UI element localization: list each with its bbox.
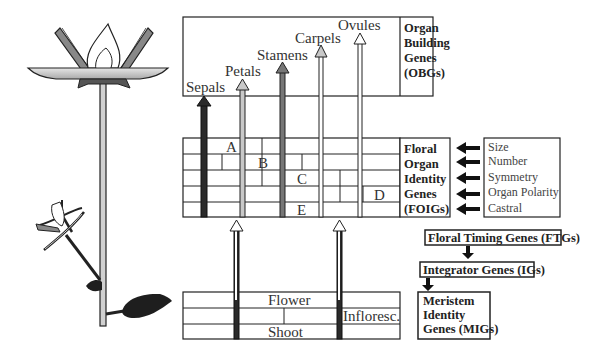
trait-item: Size: [488, 140, 509, 154]
lateral-branch: [66, 235, 100, 280]
foig-grid: A B C D E: [183, 138, 400, 218]
abc-label-b: B: [258, 155, 268, 171]
obg-line: Building: [404, 36, 451, 50]
obg-line: (OBGs): [404, 66, 445, 80]
foig-line: (FOIGs): [404, 202, 449, 216]
foig-line: Organ: [404, 157, 439, 171]
ftg-label: Floral Timing Genes (FTGs): [428, 231, 580, 245]
obg-line: Organ: [404, 21, 439, 35]
organ-label-carpels: Carpels: [295, 30, 341, 46]
ig-label: Integrator Genes (IGs): [423, 263, 545, 277]
organ-label-petals: Petals: [225, 63, 261, 79]
mig-line: Meristem: [423, 294, 475, 308]
organ-label-stamens: Stamens: [257, 47, 308, 63]
abc-label-a: A: [226, 139, 237, 155]
sepal-disc: [28, 68, 168, 79]
trait-arrows: [456, 142, 480, 215]
abc-label-d: D: [374, 187, 385, 203]
meristem-label-shoot: Shoot: [268, 324, 304, 340]
obg-label: Organ Building Genes (OBGs): [404, 21, 451, 80]
organ-label-ovules: Ovules: [338, 17, 381, 33]
foig-line: Identity: [404, 172, 447, 186]
small-flower: [36, 200, 84, 250]
large-leaf: [122, 294, 172, 318]
organ-label-sepals: Sepals: [186, 79, 225, 95]
abc-label-e: E: [297, 202, 306, 218]
meristem-label-flower: Flower: [268, 292, 311, 308]
left-arrow-icon: [456, 156, 480, 168]
obg-line: Genes: [404, 51, 437, 65]
foig-line: Floral: [404, 142, 437, 156]
down-arrow-icon: [462, 246, 474, 259]
mig-line: Identity: [423, 308, 466, 322]
left-arrow-icon: [456, 188, 480, 200]
meristem-label-infloresc: Infloresc.: [343, 308, 400, 324]
foig-line: Genes: [404, 187, 437, 201]
trait-item: Symmetry: [488, 170, 538, 184]
top-flower: [28, 24, 168, 88]
trait-item: Organ Polarity: [488, 185, 559, 199]
abc-label-c: C: [297, 171, 307, 187]
small-leaf: [86, 280, 102, 291]
meristem-grid: Flower Infloresc. Shoot: [183, 292, 400, 340]
floral-gene-diagram: Organ Building Genes (OBGs) Sepals Petal…: [0, 0, 594, 355]
down-arrow-icon: [422, 278, 434, 291]
trait-item: Number: [488, 154, 527, 168]
left-arrow-icon: [456, 142, 480, 154]
plant-illustration: [28, 24, 172, 326]
mig-line: Genes (MIGs): [423, 322, 498, 336]
left-arrow-icon: [456, 203, 480, 215]
left-arrow-icon: [456, 172, 480, 184]
trait-item: Castral: [488, 201, 523, 215]
